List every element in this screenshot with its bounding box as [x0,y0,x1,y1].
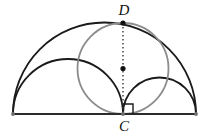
dot-point-d [120,20,125,25]
dot-point-c [121,112,125,116]
dot-circle-center [120,66,125,71]
geometry-figure: D C [0,0,207,137]
point-label-d: D [118,2,130,18]
point-label-c: C [119,118,130,134]
dot-point-a [11,112,15,116]
dot-point-b [194,112,198,116]
semicircle-ac-arc [13,59,123,114]
arbelos-diagram: D C [0,0,207,137]
